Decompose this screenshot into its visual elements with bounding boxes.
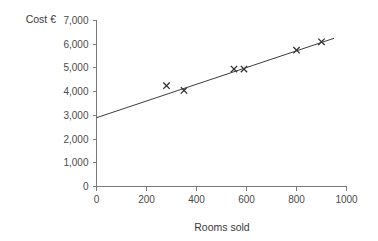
line-of-best-fit xyxy=(97,38,335,117)
plot-area: 01,0002,0003,0004,0005,0006,0007,000 020… xyxy=(0,0,378,241)
x-axis-tick-labels: 02004006008001000 xyxy=(94,194,358,205)
y-tick-label: 1,000 xyxy=(63,157,88,168)
y-tick-label: 4,000 xyxy=(63,86,88,97)
y-tick-label: 7,000 xyxy=(63,15,88,26)
x-tick-label: 400 xyxy=(188,194,205,205)
x-axis-tick-marks xyxy=(97,187,347,191)
data-point-marker xyxy=(163,83,169,89)
cost-vs-rooms-scatter-chart: 01,0002,0003,0004,0005,0006,0007,000 020… xyxy=(0,0,378,241)
y-axis-tick-marks xyxy=(93,21,97,187)
y-tick-label: 6,000 xyxy=(63,39,88,50)
y-tick-label: 0 xyxy=(83,181,89,192)
axes-group xyxy=(93,21,347,191)
y-axis-tick-labels: 01,0002,0003,0004,0005,0006,0007,000 xyxy=(63,15,88,192)
data-series-group xyxy=(97,38,335,117)
y-axis-title: Cost € xyxy=(26,13,57,25)
x-tick-label: 1000 xyxy=(335,194,358,205)
x-tick-label: 800 xyxy=(288,194,305,205)
y-tick-label: 2,000 xyxy=(63,134,88,145)
x-tick-label: 0 xyxy=(94,194,100,205)
x-tick-label: 200 xyxy=(138,194,155,205)
y-tick-label: 5,000 xyxy=(63,62,88,73)
x-axis-title: Rooms sold xyxy=(194,221,250,233)
y-tick-label: 3,000 xyxy=(63,110,88,121)
x-tick-label: 600 xyxy=(238,194,255,205)
